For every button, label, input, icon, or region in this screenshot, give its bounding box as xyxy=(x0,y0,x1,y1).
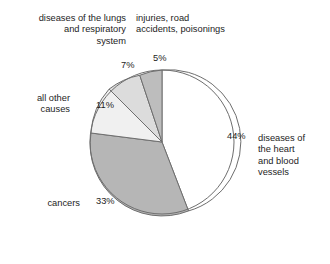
category-label-lungs: diseases of the lungs and respiratory sy… xyxy=(4,13,126,47)
value-label-lungs: 7% xyxy=(121,60,134,71)
category-label-heart: diseases of the heart and blood vessels xyxy=(258,133,328,179)
pie-chart-figure: diseases of the lungs and respiratory sy… xyxy=(0,0,330,264)
value-label-other-causes: 11% xyxy=(96,100,114,111)
category-label-injuries: injuries, road accidents, poisonings xyxy=(136,13,266,36)
category-label-other-causes: all other causes xyxy=(4,93,70,116)
value-label-cancers: 33% xyxy=(96,196,115,207)
category-label-cancers: cancers xyxy=(18,198,80,209)
value-label-injuries: 5% xyxy=(153,53,166,64)
value-label-heart: 44% xyxy=(227,131,246,142)
